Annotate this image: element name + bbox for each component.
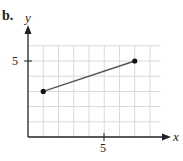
x-axis-arrow-icon: [162, 134, 171, 141]
y-axis-label: y: [23, 10, 31, 25]
y-tick-label: 5: [12, 54, 18, 68]
coordinate-plane: b. x y 5 5: [0, 0, 183, 161]
data-point: [132, 58, 137, 63]
data-point: [41, 89, 46, 94]
y-axis-arrow-icon: [25, 25, 32, 34]
x-axis-label: x: [172, 129, 179, 144]
grid-lines: [28, 46, 161, 137]
part-label: b.: [2, 8, 13, 23]
x-tick-label: 5: [100, 141, 106, 155]
